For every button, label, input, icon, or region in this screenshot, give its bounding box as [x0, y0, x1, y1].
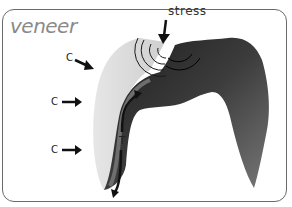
compression-label-1: C [66, 52, 73, 63]
compression-arrow-icon-1 [75, 60, 94, 70]
compression-label-3: C [51, 144, 58, 155]
tooth-crown-diagram [0, 0, 292, 207]
stress-arrow-icon [158, 20, 170, 44]
tension-label: T [119, 135, 125, 146]
compression-arrow-icon-2 [62, 97, 82, 107]
compression-label-2: C [51, 96, 58, 107]
compression-arrow-icon-3 [62, 145, 82, 155]
